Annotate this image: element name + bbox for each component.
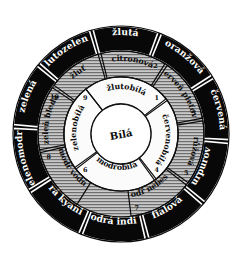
inner-ring-number: 9 <box>83 94 88 102</box>
middle-ring-number: 7 <box>135 204 139 212</box>
middle-ring-number: 2 <box>153 62 157 70</box>
outer-ring-label: žlutá <box>112 26 140 39</box>
middle-ring-number: 5 <box>184 169 188 177</box>
middle-ring-number: 10 <box>50 93 59 101</box>
middle-ring-number: 8 <box>46 153 51 161</box>
middle-ring-number: 3 <box>192 109 197 117</box>
inner-ring-number: 4 <box>154 166 159 174</box>
inner-ring-number: 1 <box>154 94 158 102</box>
color-wheel-diagram: žlutáoranžováčervenápurpurováfialovámodr… <box>0 0 237 266</box>
inner-ring-number: 6 <box>83 166 88 174</box>
color-wheel-svg: žlutáoranžováčervenápurpurováfialovámodr… <box>0 0 237 266</box>
